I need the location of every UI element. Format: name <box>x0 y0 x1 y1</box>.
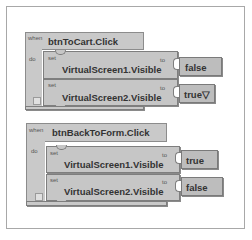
property-name: VirtualScreen2.Visible <box>64 186 163 197</box>
event-block-footer <box>25 106 144 110</box>
to-label: to <box>160 85 165 91</box>
property-name: VirtualScreen1.Visible <box>62 64 161 75</box>
value-text: false <box>185 62 207 73</box>
do-label: do <box>29 56 36 62</box>
to-label: to <box>162 179 167 185</box>
when-label: when <box>29 127 43 133</box>
event-name: btnToCart.Click <box>48 36 118 47</box>
set-label: set <box>48 55 56 61</box>
set-label: set <box>48 82 56 88</box>
collapse-toggle[interactable] <box>35 193 43 201</box>
set-label: set <box>50 150 58 156</box>
event-block-footer <box>26 201 167 206</box>
set-label: set <box>50 177 58 183</box>
value-text: true <box>186 155 204 166</box>
event-name: btnBackToForm.Click <box>52 127 149 138</box>
when-label: when <box>28 35 42 41</box>
collapse-toggle[interactable] <box>33 97 41 105</box>
do-label: do <box>31 148 38 154</box>
property-name: VirtualScreen2.Visible <box>62 92 161 103</box>
to-label: to <box>162 152 167 158</box>
property-name: VirtualScreen1.Visible <box>64 159 163 170</box>
to-label: to <box>160 57 165 63</box>
value-text: true▽ <box>184 89 210 100</box>
value-text: false <box>186 182 208 193</box>
